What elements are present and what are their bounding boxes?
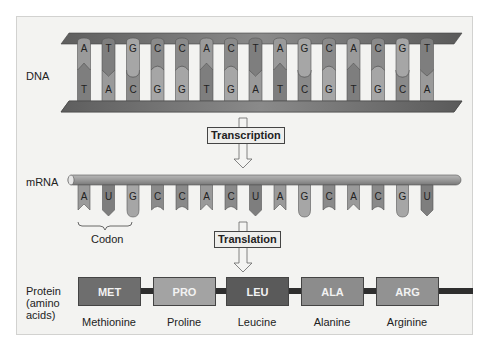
amino-acid-arg: ARG bbox=[376, 277, 439, 306]
amino-acid-pro: PRO bbox=[153, 277, 216, 306]
base-letter: T bbox=[277, 84, 283, 95]
amino-acid-name: Arginine bbox=[367, 316, 447, 328]
base-letter: G bbox=[178, 84, 186, 95]
base-letter: G bbox=[301, 43, 309, 54]
base-letter: C bbox=[178, 43, 185, 54]
base-letter: T bbox=[105, 43, 111, 54]
mrna-tube-end bbox=[68, 175, 74, 185]
mrna-label: mRNA bbox=[26, 176, 58, 188]
base-letter: T bbox=[81, 84, 87, 95]
base-letter: G bbox=[301, 191, 309, 202]
base-letter: C bbox=[301, 84, 308, 95]
base-letter: A bbox=[277, 191, 284, 202]
dna-base-bottom bbox=[200, 63, 213, 101]
dna-base-bottom bbox=[274, 63, 287, 101]
base-letter: A bbox=[252, 84, 259, 95]
base-letter: C bbox=[227, 43, 234, 54]
base-letter: C bbox=[178, 191, 185, 202]
amino-acid-ala: ALA bbox=[301, 277, 364, 306]
base-letter: C bbox=[227, 191, 234, 202]
transcription-box: Transcription bbox=[207, 127, 285, 144]
base-letter: C bbox=[129, 84, 136, 95]
base-letter: A bbox=[105, 84, 112, 95]
mrna-backbone bbox=[68, 175, 461, 185]
base-letter: A bbox=[277, 43, 284, 54]
amino-acid-name: Methionine bbox=[69, 316, 149, 328]
base-letter: T bbox=[350, 84, 356, 95]
codon-brace bbox=[78, 222, 132, 230]
base-letter: G bbox=[374, 84, 382, 95]
base-letter: T bbox=[424, 43, 430, 54]
base-letter: A bbox=[81, 191, 88, 202]
base-letter: C bbox=[374, 191, 381, 202]
protein-label-line2: (amino bbox=[26, 297, 61, 309]
base-letter: A bbox=[203, 191, 210, 202]
base-letter: G bbox=[399, 43, 407, 54]
base-letter: U bbox=[105, 191, 112, 202]
base-letter: G bbox=[227, 84, 235, 95]
base-letter: U bbox=[252, 191, 259, 202]
translation-box: Translation bbox=[214, 231, 281, 248]
base-letter: A bbox=[350, 191, 357, 202]
base-letter: G bbox=[325, 84, 333, 95]
base-letter: C bbox=[325, 191, 332, 202]
base-letter: G bbox=[399, 191, 407, 202]
base-letter: C bbox=[399, 84, 406, 95]
base-letter: G bbox=[129, 191, 137, 202]
protein-label-line3: acids) bbox=[26, 309, 61, 321]
base-letter: C bbox=[325, 43, 332, 54]
base-letter: U bbox=[423, 191, 430, 202]
codon-label: Codon bbox=[91, 233, 123, 245]
dna-label: DNA bbox=[26, 70, 49, 82]
base-letter: G bbox=[129, 43, 137, 54]
base-letter: C bbox=[154, 43, 161, 54]
protein-label-line1: Protein bbox=[26, 285, 61, 297]
base-letter: A bbox=[424, 84, 431, 95]
base-letter: A bbox=[81, 43, 88, 54]
base-letter: T bbox=[203, 84, 209, 95]
base-letter: C bbox=[374, 43, 381, 54]
protein-label: Protein (amino acids) bbox=[26, 285, 61, 321]
dna-base-bottom bbox=[347, 63, 360, 101]
base-letter: A bbox=[350, 43, 357, 54]
amino-acid-name: Alanine bbox=[292, 316, 372, 328]
dna-base-bottom bbox=[78, 63, 91, 101]
amino-acid-met: MET bbox=[78, 277, 141, 306]
amino-acid-name: Leucine bbox=[217, 316, 297, 328]
base-letter: A bbox=[203, 43, 210, 54]
base-letter: C bbox=[154, 191, 161, 202]
amino-acid-name: Proline bbox=[144, 316, 224, 328]
base-letter: T bbox=[252, 43, 258, 54]
amino-acid-leu: LEU bbox=[226, 277, 289, 306]
base-letter: G bbox=[154, 84, 162, 95]
